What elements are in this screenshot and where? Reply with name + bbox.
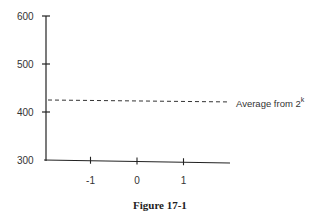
figure-caption: Figure 17-1: [133, 199, 187, 211]
x-tick-label: -1: [86, 175, 95, 186]
y-tick-label: 600: [17, 11, 34, 22]
x-tick-label: 1: [181, 175, 187, 186]
chart: 300400500600 -101 Average from 2k Figure…: [0, 0, 325, 218]
series-line-average: [48, 100, 228, 102]
y-tick-label: 500: [17, 59, 34, 70]
x-tick-label: 0: [134, 175, 140, 186]
y-tick-label: 300: [17, 155, 34, 166]
y-tick-label: 400: [17, 107, 34, 118]
annotation-superscript: k: [301, 96, 305, 103]
annotation-label: Average from 2k: [236, 96, 305, 109]
